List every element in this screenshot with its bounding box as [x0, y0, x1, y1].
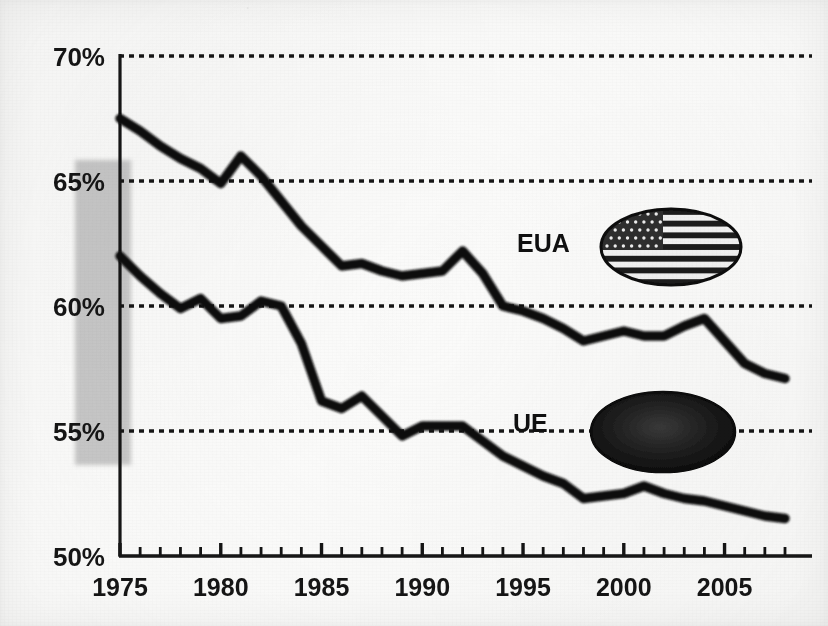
y-tick-label-70: 70% [53, 42, 105, 72]
line-chart: 70% 65% 60% 55% 50% 19751980198519901995… [0, 0, 828, 626]
x-tick-label-2005: 2005 [697, 573, 753, 601]
x-tick-label-1975: 1975 [92, 573, 148, 601]
y-tick-label-50: 50% [53, 542, 105, 572]
y-axis-tick-labels: 70% 65% 60% 55% 50% [53, 42, 105, 572]
y-tick-label-55: 55% [53, 417, 105, 447]
x-tick-label-1985: 1985 [294, 573, 350, 601]
eu-flag-icon [591, 392, 735, 472]
x-axis-tick-labels: 1975198019851990199520002005 [92, 573, 752, 601]
x-axis-ticks [120, 543, 785, 556]
x-tick-label-1995: 1995 [495, 573, 551, 601]
x-tick-label-1980: 1980 [193, 573, 249, 601]
series-label-eua: EUA [517, 229, 570, 257]
series-label-ue: UE [513, 409, 548, 437]
x-tick-label-2000: 2000 [596, 573, 652, 601]
us-flag-icon [601, 209, 741, 285]
y-tick-label-65: 65% [53, 167, 105, 197]
series-line-ue [120, 256, 785, 519]
scanned-chart-page: . [0, 0, 828, 626]
x-tick-label-1990: 1990 [394, 573, 450, 601]
y-tick-label-60: 60% [53, 292, 105, 322]
